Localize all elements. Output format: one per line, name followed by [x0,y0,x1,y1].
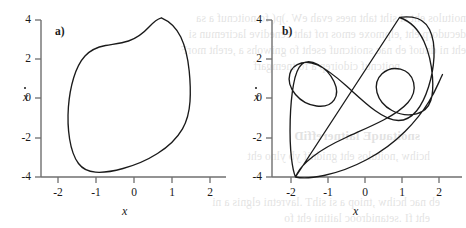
x-axis-title: x [122,204,127,219]
panel-b: b) 4 2 0 -2 -4 -2 -1 0 1 2 x x [232,0,464,228]
x-tick-label: 1 [158,186,186,198]
x-axis-ticks [58,177,210,183]
y-tick-label: -2 [10,131,31,143]
x-tick-label: 2 [425,186,453,198]
limit-cycle-curve [68,18,190,173]
x-tick-label: 0 [120,186,148,198]
y-axis-title: x [254,90,259,105]
y-tick-label: -2 [241,131,262,143]
x-tick-label: -1 [82,186,110,198]
y-tick-label: 4 [245,13,262,25]
y-tick-label: 4 [14,13,31,25]
y-tick-label: 2 [245,52,262,64]
period-2-orbit-curve [289,17,442,178]
x-tick-label: 1 [388,186,416,198]
panel-label-a: a) [55,25,65,37]
y-axis-ticks [35,20,41,177]
y-tick-label: -4 [10,170,31,182]
x-tick-label: -2 [277,186,305,198]
x-tick-label: -1 [314,186,342,198]
x-tick-label: 2 [196,186,224,198]
x-tick-label: -2 [44,186,72,198]
y-axis-title-text: x [23,90,28,105]
panel-label-b: b) [282,25,292,37]
y-axis-ticks [266,20,272,177]
y-axis-title: x [23,90,28,105]
y-tick-label: -4 [241,170,262,182]
y-axis-title-text: x [254,90,259,105]
panel-a: a) 4 2 0 -2 -4 -2 -1 0 1 2 x x [0,0,232,228]
x-tick-label: 0 [351,186,379,198]
y-tick-label: 2 [14,52,31,64]
x-axis-title: x [353,204,358,219]
